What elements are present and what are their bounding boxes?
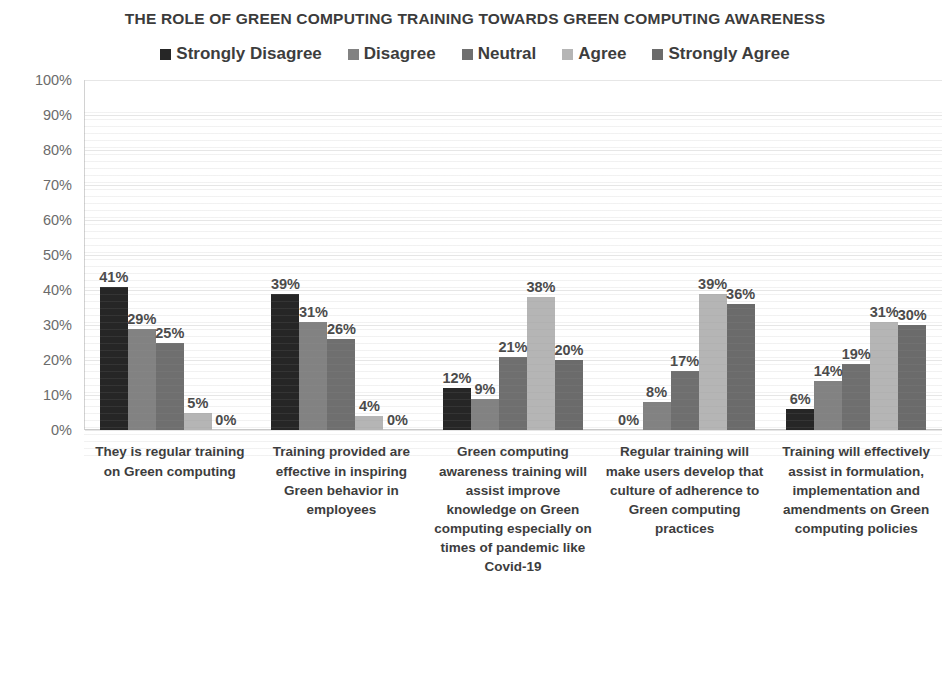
- bar-value-label: 17%: [670, 353, 699, 369]
- gridline: [85, 430, 942, 431]
- legend-item-strongly-disagree[interactable]: Strongly Disagree: [160, 44, 322, 64]
- chart-title: THE ROLE OF GREEN COMPUTING TRAINING TOW…: [95, 0, 855, 30]
- plot-area: 100%90%80%70%60%50%40%30%20%10%0% 41%29%…: [0, 80, 950, 440]
- bar[interactable]: [898, 325, 926, 430]
- bar[interactable]: [870, 322, 898, 431]
- bar-value-label: 19%: [842, 346, 871, 362]
- bar-slot: 12%: [443, 80, 471, 430]
- bar[interactable]: [156, 343, 184, 431]
- legend-label: Neutral: [478, 44, 537, 64]
- legend-label: Strongly Agree: [668, 44, 789, 64]
- legend-label: Agree: [578, 44, 626, 64]
- bar-value-label: 39%: [271, 276, 300, 292]
- bar-value-label: 0%: [215, 412, 236, 428]
- bar[interactable]: [355, 416, 383, 430]
- bar-slot: 30%: [898, 80, 926, 430]
- x-axis-category-label: Green computing awareness training will …: [427, 432, 599, 576]
- y-axis-tick-label: 10%: [43, 387, 72, 403]
- legend-swatch-icon: [562, 49, 573, 60]
- y-axis-tick-label: 70%: [43, 177, 72, 193]
- bar[interactable]: [499, 357, 527, 431]
- bar-value-label: 12%: [442, 370, 471, 386]
- bar-groups: 41%29%25%5%0%39%31%26%4%0%12%9%21%38%20%…: [84, 80, 942, 430]
- bar[interactable]: [327, 339, 355, 430]
- legend-label: Strongly Disagree: [176, 44, 322, 64]
- bar-slot: 26%: [327, 80, 355, 430]
- x-axis-category-label: Training provided are effective in inspi…: [256, 432, 428, 576]
- legend-item-disagree[interactable]: Disagree: [348, 44, 436, 64]
- bar-value-label: 30%: [898, 307, 927, 323]
- bar-slot: 19%: [842, 80, 870, 430]
- bar[interactable]: [299, 322, 327, 431]
- bar[interactable]: [786, 409, 814, 430]
- bar[interactable]: [699, 294, 727, 431]
- bar-slot: 4%: [355, 80, 383, 430]
- bar[interactable]: [814, 381, 842, 430]
- bar-value-label: 39%: [698, 276, 727, 292]
- y-axis-tick-label: 80%: [43, 142, 72, 158]
- legend-swatch-icon: [652, 49, 663, 60]
- bar[interactable]: [527, 297, 555, 430]
- bar-slot: 29%: [128, 80, 156, 430]
- bar-value-label: 6%: [790, 391, 811, 407]
- bar-value-label: 26%: [327, 321, 356, 337]
- legend-item-strongly-agree[interactable]: Strongly Agree: [652, 44, 789, 64]
- bar-slot: 21%: [499, 80, 527, 430]
- bar-slot: 0%: [383, 80, 411, 430]
- bar-slot: 38%: [527, 80, 555, 430]
- bar[interactable]: [128, 329, 156, 431]
- x-axis-category-label: They is regular training on Green comput…: [84, 432, 256, 576]
- bar-value-label: 31%: [299, 304, 328, 320]
- chart-legend: Strongly DisagreeDisagreeNeutralAgreeStr…: [0, 44, 950, 64]
- bar[interactable]: [671, 371, 699, 431]
- legend-item-agree[interactable]: Agree: [562, 44, 626, 64]
- y-axis-tick-label: 100%: [35, 72, 72, 88]
- bar-slot: 14%: [814, 80, 842, 430]
- bar-slot: 39%: [271, 80, 299, 430]
- bar-value-label: 9%: [475, 381, 496, 397]
- bar-slot: 41%: [100, 80, 128, 430]
- bar[interactable]: [443, 388, 471, 430]
- bar-value-label: 38%: [526, 279, 555, 295]
- bar[interactable]: [184, 413, 212, 431]
- legend-item-neutral[interactable]: Neutral: [462, 44, 537, 64]
- x-axis-category-label: Regular training will make users develop…: [599, 432, 771, 576]
- bar[interactable]: [100, 287, 128, 431]
- bar-slot: 39%: [699, 80, 727, 430]
- y-axis-tick-label: 90%: [43, 107, 72, 123]
- bar-value-label: 5%: [187, 395, 208, 411]
- y-axis-tick-label: 0%: [51, 422, 72, 438]
- bar-value-label: 8%: [646, 384, 667, 400]
- legend-swatch-icon: [462, 49, 473, 60]
- bar[interactable]: [471, 399, 499, 431]
- bar-slot: 17%: [671, 80, 699, 430]
- x-axis-labels: They is regular training on Green comput…: [84, 432, 942, 576]
- bar[interactable]: [555, 360, 583, 430]
- bar-slot: 0%: [212, 80, 240, 430]
- y-axis-tick-label: 20%: [43, 352, 72, 368]
- bar-group: 6%14%19%31%30%: [770, 80, 942, 430]
- bar[interactable]: [643, 402, 671, 430]
- bar-group: 41%29%25%5%0%: [84, 80, 256, 430]
- bar-value-label: 0%: [618, 412, 639, 428]
- bar-slot: 36%: [727, 80, 755, 430]
- bar-value-label: 20%: [554, 342, 583, 358]
- bar[interactable]: [727, 304, 755, 430]
- bar-value-label: 4%: [359, 398, 380, 414]
- y-axis-tick-label: 30%: [43, 317, 72, 333]
- bar-slot: 31%: [299, 80, 327, 430]
- bar-group: 0%8%17%39%36%: [599, 80, 771, 430]
- bar[interactable]: [271, 294, 299, 431]
- bar-value-label: 31%: [870, 304, 899, 320]
- bar-value-label: 0%: [387, 412, 408, 428]
- y-axis-tick-label: 40%: [43, 282, 72, 298]
- y-axis-tick-label: 50%: [43, 247, 72, 263]
- bar-group: 39%31%26%4%0%: [256, 80, 428, 430]
- bar-slot: 9%: [471, 80, 499, 430]
- bar-value-label: 21%: [498, 339, 527, 355]
- legend-swatch-icon: [348, 49, 359, 60]
- bar-value-label: 25%: [155, 325, 184, 341]
- bar-slot: 5%: [184, 80, 212, 430]
- bar[interactable]: [842, 364, 870, 431]
- bar-value-label: 29%: [127, 311, 156, 327]
